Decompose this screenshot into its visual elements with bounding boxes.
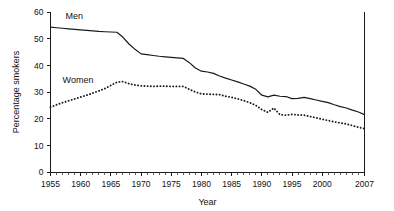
line-chart: 0102030405060 19551960196519701975198019… xyxy=(0,0,394,211)
x-tick-label: 2007 xyxy=(355,179,374,189)
x-tick-label: 1955 xyxy=(41,179,60,189)
y-tick-label: 20 xyxy=(34,114,44,124)
x-axis-ticks: 1955196019651970197519801985199019952000… xyxy=(41,172,374,189)
x-tick-label: 1970 xyxy=(132,179,151,189)
x-tick-label: 1975 xyxy=(162,179,181,189)
x-tick-label: 2000 xyxy=(313,179,332,189)
series-label-women: Women xyxy=(63,75,94,85)
y-tick-label: 0 xyxy=(39,167,44,177)
x-tick-label: 1990 xyxy=(252,179,271,189)
x-axis-title: Year xyxy=(198,197,216,207)
y-tick-label: 30 xyxy=(34,87,44,97)
series-line-men xyxy=(51,27,365,114)
y-tick-label: 50 xyxy=(34,34,44,44)
chart-series-group xyxy=(51,27,365,129)
series-line-women xyxy=(51,82,365,129)
y-tick-label: 40 xyxy=(34,61,44,71)
x-tick-label: 1965 xyxy=(101,179,120,189)
chart-container: 0102030405060 19551960196519701975198019… xyxy=(0,0,394,211)
x-tick-label: 1960 xyxy=(71,179,90,189)
x-tick-label: 1995 xyxy=(283,179,302,189)
series-label-men: Men xyxy=(66,11,84,21)
y-tick-label: 60 xyxy=(34,7,44,17)
x-tick-label: 1980 xyxy=(192,179,211,189)
y-tick-label: 10 xyxy=(34,141,44,151)
y-axis-title: Percentage smokers xyxy=(11,50,21,133)
y-axis-ticks: 0102030405060 xyxy=(34,7,50,177)
chart-axes xyxy=(51,12,365,172)
x-tick-label: 1985 xyxy=(222,179,241,189)
series-labels-group: MenWomen xyxy=(63,11,94,85)
